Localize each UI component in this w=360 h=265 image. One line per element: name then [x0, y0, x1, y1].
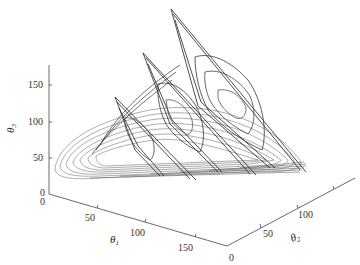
ridges	[92, 65, 180, 154]
y-axis-label: θ2	[289, 229, 303, 245]
svg-text:0: 0	[40, 196, 45, 207]
y-tick-labels: 0 50 100	[229, 209, 313, 263]
z-tick-labels: 150 100 50 0	[28, 79, 45, 198]
x-axis-label: θ1	[110, 233, 119, 247]
svg-text:100: 100	[130, 227, 145, 238]
svg-text:150: 150	[178, 242, 193, 253]
svg-text:150: 150	[28, 79, 43, 90]
svg-text:θ3: θ3	[4, 124, 18, 133]
svg-text:100: 100	[28, 116, 43, 127]
svg-text:0: 0	[229, 252, 234, 263]
z-axis-label: θ3	[4, 124, 18, 133]
svg-text:100: 100	[298, 209, 313, 220]
svg-text:50: 50	[263, 228, 273, 239]
svg-text:50: 50	[85, 212, 95, 223]
chart-3d-plot: 150 100 50 0 0 50 100 150 0 50 100 θ3 θ1…	[0, 0, 360, 265]
svg-text:θ2: θ2	[289, 229, 303, 245]
svg-text:50: 50	[33, 152, 43, 163]
x-axis-line	[49, 194, 227, 246]
